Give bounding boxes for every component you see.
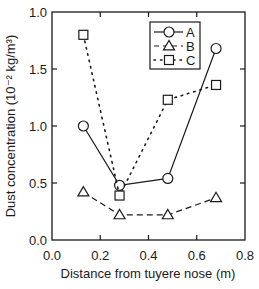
x-tick-label: 0.2: [91, 248, 109, 263]
x-tick-label: 0.0: [43, 248, 61, 263]
y-tick-label: 1.0: [29, 119, 47, 134]
y-tick-label: 0.5: [29, 176, 47, 191]
y-tick-label: 0.0: [29, 233, 47, 248]
data-point-b: [114, 209, 125, 218]
y-axis-label: Dust concentration (10⁻² kg/m³): [3, 35, 18, 218]
legend-marker-a: [164, 27, 174, 37]
x-tick-label: 0.6: [188, 248, 206, 263]
data-point-c: [79, 30, 88, 39]
series-line-b: [83, 192, 216, 215]
data-point-b: [78, 187, 89, 196]
data-point-a: [211, 43, 221, 53]
legend-label: B: [186, 39, 195, 54]
legend-label: A: [186, 25, 195, 40]
y-tick-label: 1.0: [29, 5, 47, 20]
data-point-c: [163, 95, 172, 104]
x-axis-label: Distance from tuyere nose (m): [61, 266, 236, 281]
data-point-b: [211, 192, 222, 201]
data-point-c: [115, 191, 124, 200]
legend: ABC: [150, 22, 200, 69]
legend-label: C: [186, 53, 195, 68]
y-axis-ticks: 0.00.51.01.51.0: [29, 5, 245, 248]
y-tick-label: 1.5: [29, 62, 47, 77]
x-tick-label: 0.8: [236, 248, 254, 263]
chart: 0.00.20.40.60.8 0.00.51.01.51.0 ABC Dist…: [0, 0, 259, 289]
x-tick-label: 0.4: [139, 248, 157, 263]
series-b: [78, 187, 222, 219]
data-point-a: [163, 173, 173, 183]
data-point-a: [78, 121, 88, 131]
data-point-c: [212, 80, 221, 89]
legend-marker-c: [165, 56, 174, 65]
